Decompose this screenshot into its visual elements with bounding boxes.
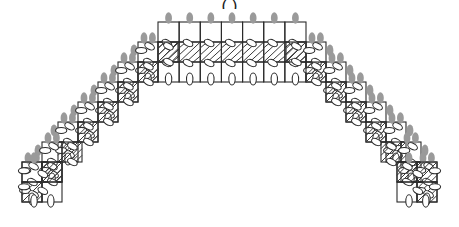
joint-marker	[136, 47, 147, 53]
joint-marker	[187, 73, 193, 85]
joint-marker	[429, 168, 440, 174]
load-marker	[271, 12, 278, 24]
joint-marker	[31, 195, 37, 207]
joint-marker	[76, 107, 87, 113]
load-marker	[81, 92, 88, 104]
load-marker	[101, 72, 108, 84]
joint-marker	[429, 184, 440, 190]
joint-marker	[224, 38, 236, 48]
load-marker	[397, 112, 404, 124]
arch-crown	[243, 22, 264, 42]
joint-marker	[116, 67, 127, 73]
joint-marker	[203, 38, 215, 48]
arch-diagram-svg	[0, 0, 459, 227]
joint-marker	[364, 107, 375, 113]
joint-marker	[229, 73, 235, 85]
load-marker	[186, 12, 193, 24]
joint-marker	[271, 73, 277, 85]
load-marker	[377, 92, 384, 104]
load-marker	[109, 72, 116, 84]
joint-marker	[245, 58, 257, 68]
joint-marker	[182, 58, 194, 68]
load-marker	[369, 92, 376, 104]
load-marker	[404, 132, 411, 144]
joint-marker	[267, 38, 279, 48]
load-marker	[207, 12, 214, 24]
load-marker	[121, 52, 128, 64]
load-marker	[229, 12, 236, 24]
joint-marker	[208, 73, 214, 85]
load-marker	[129, 52, 136, 64]
joint-marker	[292, 73, 298, 85]
joint-marker	[40, 147, 51, 153]
load-marker	[165, 12, 172, 24]
load-marker	[149, 32, 156, 44]
load-marker	[89, 92, 96, 104]
load-marker	[53, 132, 60, 144]
joint-marker	[304, 47, 315, 53]
joint-marker	[18, 168, 29, 174]
joint-marker	[344, 87, 355, 93]
joint-marker	[66, 157, 78, 167]
joint-marker	[267, 58, 279, 68]
joint-marker	[324, 67, 335, 73]
joint-marker	[423, 195, 429, 207]
arch-structure	[18, 12, 440, 207]
load-marker	[389, 112, 396, 124]
joint-marker	[162, 41, 174, 51]
load-marker	[329, 52, 336, 64]
load-marker	[31, 152, 38, 164]
joint-marker	[48, 195, 54, 207]
joint-marker	[162, 57, 174, 67]
joint-marker	[182, 38, 194, 48]
load-marker	[292, 12, 299, 24]
arch-crown	[221, 22, 242, 42]
arch-crown	[285, 22, 306, 42]
load-marker	[45, 132, 52, 144]
load-marker	[141, 32, 148, 44]
load-marker	[406, 152, 413, 164]
joint-marker	[96, 87, 107, 93]
joint-marker	[250, 73, 256, 85]
load-marker	[250, 12, 257, 24]
diagram-stage	[0, 0, 459, 227]
joint-marker	[384, 127, 395, 133]
arch-crown	[264, 22, 285, 42]
load-marker	[61, 112, 68, 124]
load-marker	[349, 72, 356, 84]
arch-crown	[200, 22, 221, 42]
joint-marker	[18, 184, 29, 190]
joint-marker	[290, 41, 302, 51]
arch-crown	[179, 22, 200, 42]
joint-marker	[224, 58, 236, 68]
arch-crown	[158, 22, 179, 42]
joint-marker	[245, 38, 257, 48]
load-marker	[337, 52, 344, 64]
load-marker	[69, 112, 76, 124]
load-marker	[309, 32, 316, 44]
joint-marker	[165, 73, 171, 85]
joint-marker	[406, 195, 412, 207]
joint-marker	[37, 186, 49, 196]
load-marker	[357, 72, 364, 84]
load-marker	[317, 32, 324, 44]
joint-marker	[203, 58, 215, 68]
load-marker	[412, 132, 419, 144]
